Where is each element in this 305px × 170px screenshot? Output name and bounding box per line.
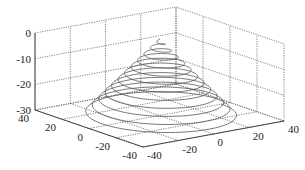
x-tick-label: 0 (218, 136, 224, 148)
3d-spiral-plot: 0-10-20-3040200-20-40-40-2002040 (0, 0, 305, 170)
x-tick-label: 40 (288, 123, 300, 135)
x-tick-label: 20 (253, 130, 265, 142)
z-tick-label: -20 (16, 78, 31, 90)
z-tick-label: 0 (26, 27, 32, 39)
y-tick-label: -20 (95, 140, 110, 152)
y-tick-label: -40 (122, 149, 137, 161)
y-tick-label: 20 (45, 121, 57, 133)
spiral-path (86, 39, 237, 133)
z-tick-label: -10 (16, 53, 31, 65)
x-tick-label: -20 (182, 143, 197, 155)
y-tick-label: 40 (18, 112, 30, 124)
y-tick-label: 0 (78, 131, 84, 143)
x-tick-label: -40 (147, 149, 162, 161)
spiral-curve (86, 39, 237, 133)
